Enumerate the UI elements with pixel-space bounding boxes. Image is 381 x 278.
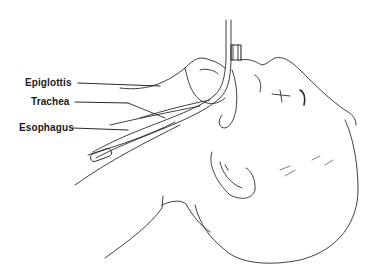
label-esophagus: Esophagus bbox=[19, 122, 74, 133]
endotracheal-tube bbox=[89, 20, 241, 163]
trachea-leader-line bbox=[75, 102, 128, 103]
esophagus-leader-line bbox=[73, 128, 128, 130]
tongue-pharynx bbox=[110, 58, 225, 125]
epiglottis-leader-line bbox=[78, 83, 160, 86]
anatomy-drawing bbox=[0, 0, 381, 278]
label-trachea: Trachea bbox=[31, 96, 70, 107]
ear bbox=[211, 152, 255, 198]
label-epiglottis: Epiglottis bbox=[25, 77, 72, 88]
